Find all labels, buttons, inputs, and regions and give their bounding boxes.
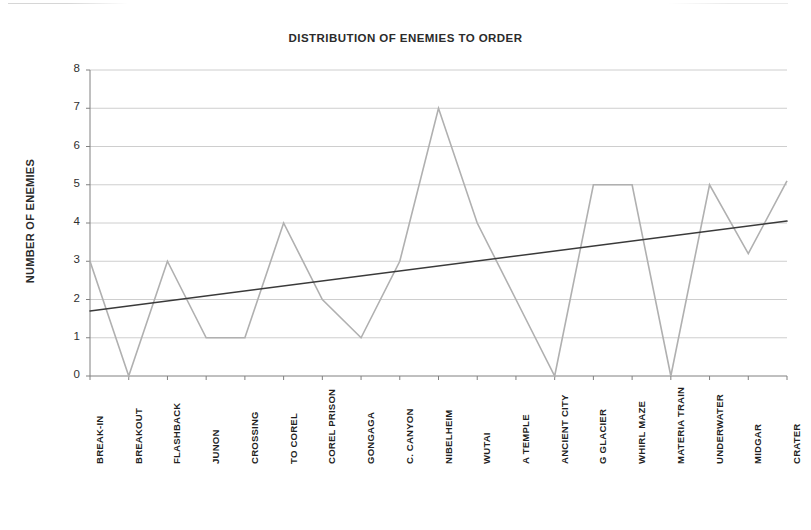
y-tick-label: 4 xyxy=(56,215,80,227)
trendline xyxy=(90,221,787,311)
y-tick-label: 3 xyxy=(56,253,80,265)
x-tick-label: BREAK-IN xyxy=(94,415,105,464)
y-tick-label: 0 xyxy=(56,368,80,380)
data-series-line xyxy=(90,108,787,376)
x-tick-label: CRATER xyxy=(791,424,802,464)
x-tick-label: TO COREL xyxy=(288,413,299,464)
y-tick-label: 1 xyxy=(56,330,80,342)
x-tick-label: WHIRL MAZE xyxy=(636,401,647,464)
x-tick-label: G GLACIER xyxy=(597,409,608,464)
x-tick-label: WUTAI xyxy=(481,432,492,464)
x-tick-label: NIBELHEIM xyxy=(443,409,454,464)
y-tick-label: 6 xyxy=(56,139,80,151)
x-tick-label: COREL PRISON xyxy=(326,389,337,464)
x-tick-label: GONGAGA xyxy=(365,412,376,464)
x-tick-label: CROSSING xyxy=(249,411,260,464)
chart-container: DISTRIBUTION OF ENEMIES TO ORDER NUMBER … xyxy=(0,0,811,530)
x-tick-label: JUNON xyxy=(210,429,221,464)
y-tick-label: 5 xyxy=(56,177,80,189)
x-tick-label: A TEMPLE xyxy=(520,414,531,464)
x-tick-label: BREAKOUT xyxy=(133,408,144,464)
y-tick-label: 7 xyxy=(56,100,80,112)
x-tick-label: FLASHBACK xyxy=(171,403,182,465)
x-tick-marks-group xyxy=(90,376,787,380)
y-tick-marks-group xyxy=(86,70,90,376)
y-tick-label: 8 xyxy=(56,62,80,74)
y-tick-label: 2 xyxy=(56,292,80,304)
x-tick-label: C. CANYON xyxy=(404,408,415,464)
x-tick-label: MIDGAR xyxy=(752,424,763,464)
x-tick-label: MATERIA TRAIN xyxy=(675,387,686,464)
x-tick-label: ANCIENT CITY xyxy=(559,394,570,464)
x-tick-label: UNDERWATER xyxy=(714,394,725,464)
